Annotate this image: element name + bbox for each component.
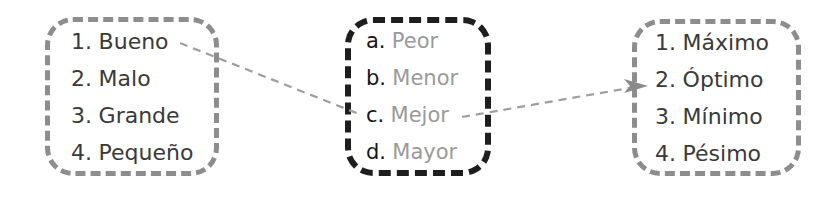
list-item-label: Mayor <box>392 134 457 171</box>
list-item-label: Máximo <box>683 24 770 61</box>
list-item[interactable]: b. Menor <box>366 60 458 97</box>
list-item[interactable]: 2. Malo <box>71 60 193 97</box>
list-item-marker: c. <box>366 97 384 134</box>
list-item[interactable]: c. Mejor <box>366 97 458 134</box>
list-item[interactable]: 3. Grande <box>71 97 193 134</box>
list-item-label: Pésimo <box>683 135 761 172</box>
list-item[interactable]: d. Mayor <box>366 134 458 171</box>
list-right: 1. Máximo 2. Óptimo 3. Mínimo 4. Pésimo <box>655 24 769 172</box>
list-item-label: Mejor <box>391 97 449 134</box>
list-item-marker: 4. <box>71 134 92 171</box>
list-item-marker: 3. <box>71 97 92 134</box>
list-item-marker: 2. <box>71 60 92 97</box>
list-item-label: Menor <box>392 60 458 97</box>
list-item[interactable]: 1. Máximo <box>655 24 769 61</box>
list-item[interactable]: 4. Pequeño <box>71 134 193 171</box>
list-item[interactable]: 1. Bueno <box>71 23 193 60</box>
list-item-label: Bueno <box>99 23 169 60</box>
list-item-label: Mínimo <box>683 98 763 135</box>
diagram-canvas: 1. Bueno 2. Malo 3. Grande 4. Pequeño a.… <box>0 0 833 197</box>
list-item[interactable]: 3. Mínimo <box>655 98 769 135</box>
list-item-marker: 4. <box>655 135 676 172</box>
list-item-label: Grande <box>99 97 180 134</box>
list-item-marker: 3. <box>655 98 676 135</box>
list-item-marker: d. <box>366 134 386 171</box>
list-item-marker: 1. <box>71 23 92 60</box>
list-item-label: Peor <box>392 23 438 60</box>
list-item-label: Malo <box>99 60 151 97</box>
list-item[interactable]: 2. Óptimo <box>655 61 769 98</box>
list-left: 1. Bueno 2. Malo 3. Grande 4. Pequeño <box>71 23 193 171</box>
list-item[interactable]: 4. Pésimo <box>655 135 769 172</box>
list-item-marker: b. <box>366 60 386 97</box>
list-item[interactable]: a. Peor <box>366 23 458 60</box>
list-middle: a. Peor b. Menor c. Mejor d. Mayor <box>366 23 458 171</box>
list-item-label: Óptimo <box>683 61 764 98</box>
list-item-label: Pequeño <box>99 134 194 171</box>
list-item-marker: 2. <box>655 61 676 98</box>
list-item-marker: 1. <box>655 24 676 61</box>
list-item-marker: a. <box>366 23 386 60</box>
